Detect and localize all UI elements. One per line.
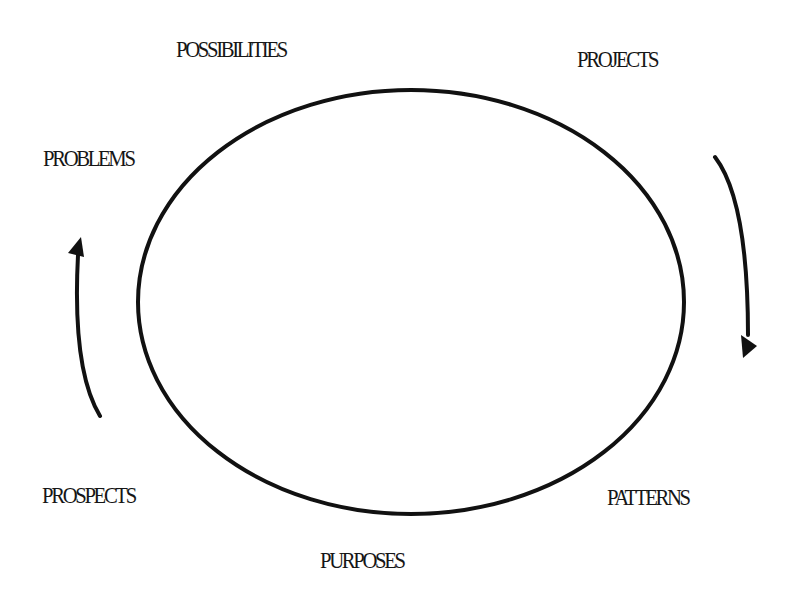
cycle-diagram (0, 0, 799, 607)
label-projects: PROJECTS (577, 48, 657, 71)
label-possibilities: POSSIBILITIES (176, 38, 286, 61)
label-patterns: PATTERNS (607, 486, 689, 509)
label-problems: PROBLEMS (43, 147, 134, 170)
left-arrow-icon (68, 237, 100, 416)
right-arrow-icon (715, 157, 757, 358)
cycle-ellipse (138, 90, 684, 514)
label-prospects: PROSPECTS (42, 484, 135, 507)
label-purposes: PURPOSES (320, 549, 404, 572)
